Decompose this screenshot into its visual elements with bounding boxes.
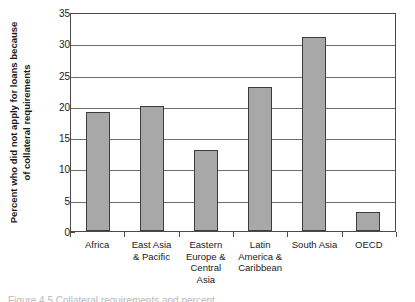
x-axis-label-line: Central bbox=[179, 262, 233, 274]
x-axis-label-line: Africa bbox=[70, 239, 124, 251]
x-axis-label-4: South Asia bbox=[287, 239, 341, 285]
figure-caption: Figure 4.5 Collateral requirements and p… bbox=[8, 295, 408, 302]
y-axis-title-line-2: of collateral requirements bbox=[21, 22, 34, 224]
y-tick-label-5: 5 bbox=[48, 195, 70, 206]
x-axis-label-1: East Asia& Pacific bbox=[124, 239, 178, 285]
y-axis-title: Percent who did not apply for loans beca… bbox=[0, 0, 42, 245]
x-axis-label-line: Caribbean bbox=[233, 262, 287, 274]
y-tick-label-15: 15 bbox=[48, 133, 70, 144]
bar[interactable] bbox=[140, 106, 164, 231]
bar-chart-figure: Percent who did not apply for loans beca… bbox=[0, 0, 415, 302]
x-axis-labels: AfricaEast Asia& PacificEasternEurope &C… bbox=[70, 239, 396, 285]
bar-series bbox=[71, 14, 395, 231]
x-axis-label-line: Europe & bbox=[179, 251, 233, 263]
bar-cell bbox=[71, 14, 125, 231]
x-axis-label-line: South Asia bbox=[287, 239, 341, 251]
bar-cell bbox=[341, 14, 395, 231]
x-axis-label-line: Latin bbox=[233, 239, 287, 251]
bar[interactable] bbox=[194, 150, 218, 231]
x-axis-label-line: Eastern bbox=[179, 239, 233, 251]
x-axis-label-line: America & bbox=[233, 251, 287, 263]
bar-cell bbox=[179, 14, 233, 231]
bar-cell bbox=[233, 14, 287, 231]
bar-cell bbox=[125, 14, 179, 231]
x-tick-mark-4 bbox=[287, 232, 288, 237]
y-tick-label-35: 35 bbox=[48, 8, 70, 19]
x-axis-label-line: OECD bbox=[342, 239, 396, 251]
x-axis-label-line: & Pacific bbox=[124, 251, 178, 263]
y-tick-label-25: 25 bbox=[48, 70, 70, 81]
x-axis-label-0: Africa bbox=[70, 239, 124, 285]
x-axis-label-line: East Asia bbox=[124, 239, 178, 251]
x-tick-mark-1 bbox=[124, 232, 125, 237]
bar[interactable] bbox=[86, 112, 110, 231]
bar-cell bbox=[287, 14, 341, 231]
bar[interactable] bbox=[356, 212, 380, 231]
y-tick-label-0: 0 bbox=[48, 227, 70, 238]
y-tick-label-30: 30 bbox=[48, 39, 70, 50]
bar[interactable] bbox=[302, 37, 326, 231]
x-tick-mark-5 bbox=[342, 232, 343, 237]
x-axis-label-line: Asia bbox=[179, 274, 233, 286]
y-axis-title-line-1: Percent who did not apply for loans beca… bbox=[9, 22, 20, 224]
x-axis-label-5: OECD bbox=[342, 239, 396, 285]
x-axis-ticks bbox=[70, 232, 396, 237]
x-tick-mark-6 bbox=[396, 232, 397, 237]
x-tick-mark-2 bbox=[179, 232, 180, 237]
y-tick-label-20: 20 bbox=[48, 101, 70, 112]
y-axis-ticks: 05101520253035 bbox=[40, 13, 70, 232]
x-tick-mark-0 bbox=[70, 232, 71, 237]
x-axis-label-3: LatinAmerica &Caribbean bbox=[233, 239, 287, 285]
bar[interactable] bbox=[248, 87, 272, 231]
x-tick-mark-3 bbox=[233, 232, 234, 237]
x-axis-label-2: EasternEurope &CentralAsia bbox=[179, 239, 233, 285]
y-tick-label-10: 10 bbox=[48, 164, 70, 175]
plot-area bbox=[70, 13, 396, 232]
